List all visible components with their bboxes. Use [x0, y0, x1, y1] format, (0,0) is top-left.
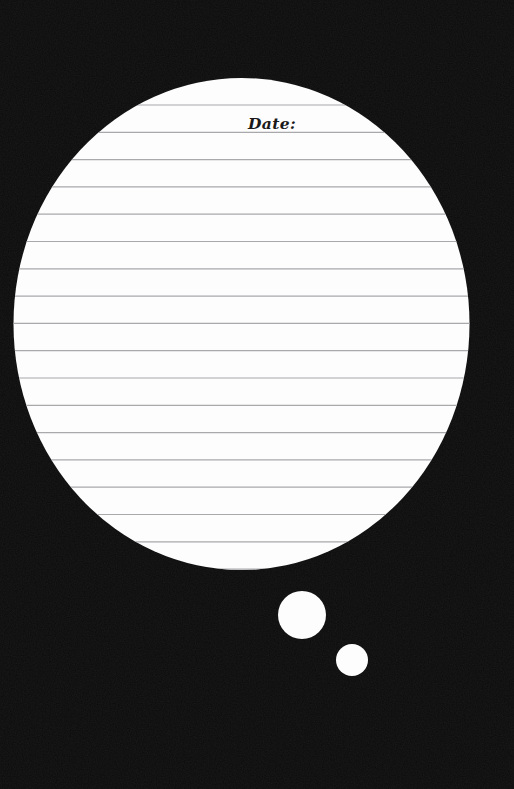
thought-bubble-tail-small[interactable]	[336, 644, 368, 676]
thought-bubble-graphic: Date:	[0, 0, 514, 789]
date-field-label: Date:	[247, 114, 296, 133]
notepad-page: Date:	[0, 0, 514, 789]
thought-bubble-tail-large[interactable]	[278, 591, 326, 639]
